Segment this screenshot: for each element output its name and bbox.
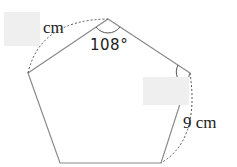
right-side-length-label: 9 cm: [183, 113, 217, 133]
side-length-blank[interactable]: [4, 12, 40, 46]
angle-blank[interactable]: [143, 77, 189, 105]
top-angle-arc: [96, 27, 120, 33]
top-left-side-unit-label: cm: [43, 18, 64, 38]
pentagon-diagram: cm 108° 9 cm: [0, 0, 237, 167]
top-angle-label: 108°: [90, 36, 128, 54]
